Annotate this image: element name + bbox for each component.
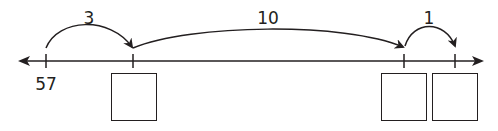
answer-box-1[interactable] bbox=[111, 73, 157, 121]
jump-arcs bbox=[46, 25, 455, 48]
number-line bbox=[18, 56, 484, 66]
jump-label-2: 10 bbox=[257, 10, 279, 27]
start-label: 57 bbox=[35, 76, 57, 93]
jump-label-3: 1 bbox=[424, 10, 435, 27]
answer-box-3[interactable] bbox=[432, 73, 478, 121]
jump-label-1: 3 bbox=[84, 10, 95, 27]
answer-box-2[interactable] bbox=[381, 73, 427, 121]
jump-arc-2 bbox=[133, 29, 403, 48]
jump-arc-1 bbox=[46, 25, 132, 48]
jump-arc-3 bbox=[405, 27, 455, 47]
